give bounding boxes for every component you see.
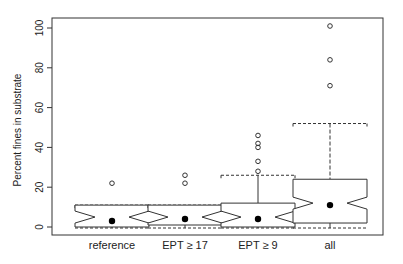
x-category-label: EPT ≥ 17 — [162, 239, 208, 251]
y-tick-label: 60 — [34, 102, 45, 114]
y-tick-label: 20 — [34, 181, 45, 193]
y-tick-label: 80 — [34, 62, 45, 74]
box-1 — [148, 173, 222, 228]
outlier-marker — [328, 58, 333, 63]
outlier-marker — [110, 181, 115, 186]
y-tick-label: 100 — [34, 19, 45, 36]
outlier-marker — [256, 159, 261, 164]
y-tick-label: 0 — [34, 224, 45, 230]
x-category-label: reference — [89, 239, 135, 251]
mean-marker — [109, 218, 115, 224]
boxplot-chart: 020406080100referenceEPT ≥ 17EPT ≥ 9all … — [0, 0, 403, 264]
x-category-label: all — [324, 239, 335, 251]
y-axis-label: Percent fines in substrate — [12, 73, 23, 186]
box-3 — [293, 24, 367, 228]
outlier-marker — [328, 24, 333, 29]
boxes — [75, 24, 367, 228]
x-category-label: EPT ≥ 9 — [238, 239, 277, 251]
outlier-marker — [183, 181, 188, 186]
y-tick-label: 40 — [34, 141, 45, 153]
mean-marker — [255, 216, 261, 222]
mean-marker — [182, 216, 188, 222]
outlier-marker — [256, 133, 261, 138]
notched-box — [221, 203, 295, 227]
mean-marker — [327, 202, 333, 208]
outlier-marker — [256, 169, 261, 174]
outlier-marker — [328, 83, 333, 88]
outlier-marker — [183, 173, 188, 178]
box-0 — [75, 181, 149, 228]
notched-box — [293, 179, 367, 223]
box-2 — [221, 133, 295, 228]
